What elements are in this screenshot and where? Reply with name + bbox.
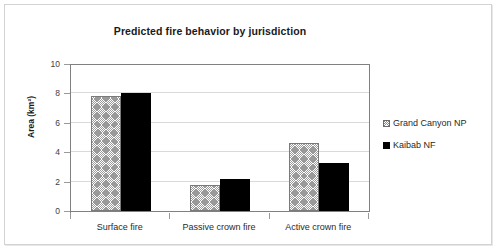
x-axis-label: Passive crown fire [182,222,255,232]
x-axis-tick [70,213,71,219]
chart-title: Predicted fire behavior by jurisdiction [0,25,420,37]
plot-area [70,64,370,212]
x-axis-label: Active crown fire [285,222,351,232]
y-axis-tick [64,64,70,65]
y-axis-tick-label: 0 [40,206,60,216]
y-axis-tick-label: 6 [40,118,60,128]
y-axis-tick [64,182,70,183]
y-axis-tick [64,211,70,212]
bar [91,96,121,211]
x-axis-tick [169,213,170,219]
chart-screenshot: Predicted fire behavior by jurisdiction … [0,0,496,251]
legend-label: Grand Canyon NP [393,118,467,128]
bar [319,163,349,212]
x-axis-tick [269,213,270,219]
legend-label: Kaibab NF [393,140,436,150]
y-axis-tick-label: 10 [40,59,60,69]
y-axis-tick [64,152,70,153]
legend-item: Grand Canyon NP [383,118,467,128]
bar [121,93,151,211]
bar [289,143,319,211]
legend-swatch-grand-canyon-np [383,120,390,127]
y-axis-tick-label: 2 [40,177,60,187]
y-axis-tick-label: 8 [40,88,60,98]
chart-legend: Grand Canyon NP Kaibab NF [383,118,467,162]
y-axis-tick [64,123,70,124]
y-axis-tick [64,93,70,94]
x-axis-tick [368,213,369,219]
bar-group [91,65,151,211]
bar [220,179,250,211]
x-axis-label: Surface fire [97,222,143,232]
y-axis-tick-label: 4 [40,147,60,157]
bar-group [289,65,349,211]
legend-item: Kaibab NF [383,140,467,150]
legend-swatch-kaibab-nf [383,142,390,149]
bar [190,185,220,211]
y-axis-title: Area (km²) [26,96,36,138]
bar-group [190,65,250,211]
